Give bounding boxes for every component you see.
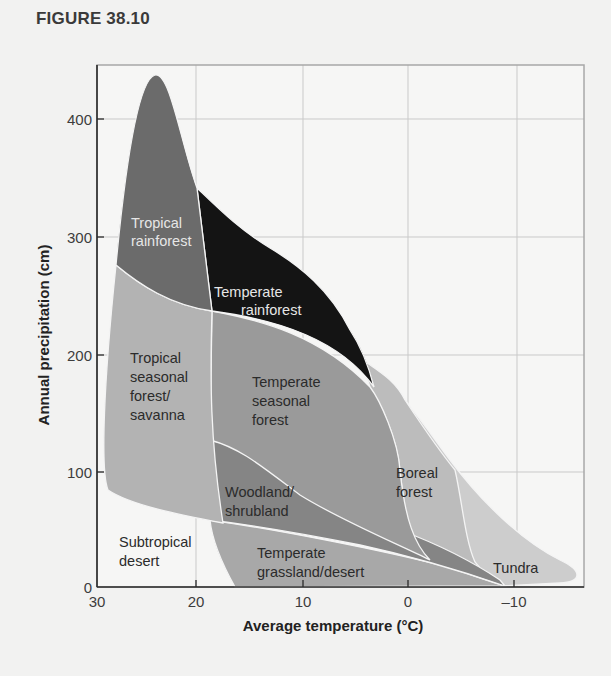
svg-text:forest: forest [396, 484, 432, 500]
y-tick-200: 200 [67, 347, 92, 364]
x-axis-label: Average temperature (°C) [243, 617, 424, 634]
y-tick-300: 300 [67, 229, 92, 246]
svg-text:Temperate: Temperate [252, 374, 321, 390]
svg-text:Tropical: Tropical [130, 350, 181, 366]
svg-text:savanna: savanna [130, 407, 186, 423]
y-axis-label: Annual precipitation (cm) [35, 245, 52, 426]
svg-text:Tundra: Tundra [493, 560, 539, 576]
svg-text:Subtropical: Subtropical [119, 534, 192, 550]
svg-text:forest: forest [252, 412, 288, 428]
svg-text:shrubland: shrubland [225, 503, 289, 519]
svg-text:seasonal: seasonal [130, 369, 188, 385]
svg-text:Temperate: Temperate [257, 545, 326, 561]
svg-text:Woodland/: Woodland/ [225, 484, 295, 500]
x-tick-neg10: –10 [501, 593, 526, 610]
svg-text:Temperate: Temperate [214, 284, 283, 300]
svg-text:forest/: forest/ [130, 388, 171, 404]
svg-text:desert: desert [119, 553, 159, 569]
x-tick-20: 20 [188, 593, 205, 610]
biome-chart: 0 100 200 300 400 30 20 10 0 –10 Average… [0, 0, 611, 676]
x-tick-10: 10 [295, 593, 312, 610]
svg-text:grassland/desert: grassland/desert [257, 564, 364, 580]
x-tick-30: 30 [89, 593, 106, 610]
svg-text:rainforest: rainforest [241, 302, 301, 318]
y-tick-100: 100 [67, 464, 92, 481]
svg-text:Boreal: Boreal [396, 465, 438, 481]
label-tundra: Tundra [493, 560, 539, 576]
svg-text:Tropical: Tropical [131, 215, 182, 231]
svg-text:rainforest: rainforest [131, 233, 191, 249]
y-tick-400: 400 [67, 111, 92, 128]
svg-text:seasonal: seasonal [252, 393, 310, 409]
x-tick-0: 0 [404, 593, 412, 610]
